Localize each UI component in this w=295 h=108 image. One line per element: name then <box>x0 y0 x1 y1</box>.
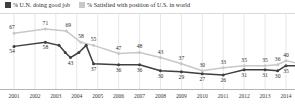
data-label: 37 <box>179 55 185 61</box>
line-chart-svg: 6771695855474843373033353536403754584337… <box>0 13 295 89</box>
data-point <box>285 59 288 62</box>
data-label: 35 <box>262 57 268 63</box>
data-label: 58 <box>78 33 84 39</box>
data-label: 55 <box>91 36 97 42</box>
data-label: 33 <box>220 59 226 65</box>
data-label: 71 <box>43 20 49 26</box>
x-tick-label-2009: 2009 <box>176 93 187 99</box>
data-label: 27 <box>200 76 206 82</box>
data-point <box>44 28 47 31</box>
legend-label-satisfied-position: % Satisfied with position of U.S. in wor… <box>87 2 190 8</box>
data-point <box>264 64 267 67</box>
data-label: 43 <box>158 49 164 55</box>
data-point <box>138 51 141 54</box>
x-tick-label-2012: 2012 <box>239 93 250 99</box>
data-point <box>57 44 60 47</box>
data-point <box>159 56 162 59</box>
data-point <box>92 44 95 47</box>
x-tick-label-2002: 2002 <box>29 93 40 99</box>
data-label: 40 <box>283 52 289 58</box>
x-tick-label-2004: 2004 <box>71 93 82 99</box>
data-label: 43 <box>68 60 74 66</box>
data-point <box>201 69 204 72</box>
data-point <box>13 32 16 35</box>
data-label: 35 <box>283 68 289 74</box>
data-label: 31 <box>262 72 268 78</box>
data-label: 69 <box>66 22 72 28</box>
data-point <box>243 64 246 67</box>
plot-area: 6771695855474843373033353536403754584337… <box>0 13 295 89</box>
x-axis: 2001200220032004200520062007200820092010… <box>0 89 295 108</box>
data-label: 37 <box>91 66 97 72</box>
data-label: 36 <box>137 67 143 73</box>
data-point <box>65 30 68 33</box>
x-axis-line <box>0 89 295 90</box>
data-point <box>79 41 82 44</box>
data-label: 47 <box>116 45 122 51</box>
legend-label-un-good-job: % U.N. doing good job <box>13 2 70 8</box>
data-label: 29 <box>179 74 185 80</box>
x-tick-label-2014: 2014 <box>281 93 292 99</box>
data-label: 48 <box>137 43 143 49</box>
data-point <box>85 44 88 47</box>
data-point <box>180 62 183 65</box>
x-tick-label-2003: 2003 <box>50 93 61 99</box>
data-point <box>77 51 80 54</box>
data-label: 30 <box>200 62 206 68</box>
data-label: 30 <box>158 73 164 79</box>
data-label: 67 <box>9 24 15 30</box>
data-point <box>222 66 225 69</box>
data-label: 35 <box>241 57 247 63</box>
legend-item-satisfied-position: % Satisfied with position of U.S. in wor… <box>79 2 190 8</box>
x-tick-label-2008: 2008 <box>155 93 166 99</box>
legend-item-un-good-job: % U.N. doing good job <box>5 2 70 8</box>
data-label: 36 <box>275 56 281 62</box>
x-tick-label-2010: 2010 <box>197 93 208 99</box>
data-label: 54 <box>9 48 15 54</box>
legend-swatch-light <box>79 2 85 8</box>
x-tick-label-2011: 2011 <box>218 93 229 99</box>
data-label: 26 <box>220 77 226 83</box>
legend-swatch-dark <box>5 2 11 8</box>
data-point <box>276 63 279 66</box>
x-tick-label-2006: 2006 <box>113 93 124 99</box>
x-tick-label-2007: 2007 <box>134 93 145 99</box>
chart-container: % U.N. doing good job % Satisfied with p… <box>0 0 295 108</box>
data-label: 30 <box>275 73 281 79</box>
x-tick-label-2013: 2013 <box>260 93 271 99</box>
data-label: 31 <box>241 72 247 78</box>
data-label: 36 <box>116 67 122 73</box>
data-point <box>117 52 120 55</box>
x-tick-label-2005: 2005 <box>92 93 103 99</box>
chart-legend: % U.N. doing good job % Satisfied with p… <box>5 2 190 8</box>
x-tick-label-2001: 2001 <box>9 93 20 99</box>
data-label: 58 <box>43 44 49 50</box>
data-point <box>64 51 67 54</box>
